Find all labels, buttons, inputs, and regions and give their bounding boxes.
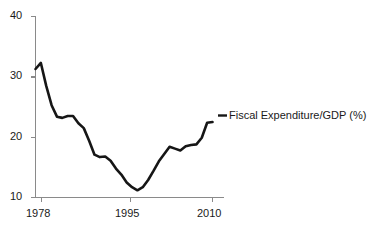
legend-series-label: Fiscal Expenditure/GDP (%) xyxy=(229,110,366,121)
chart-container: 40 30 20 10 1978 1995 2010 Fiscal Expend… xyxy=(0,0,371,233)
data-series-line xyxy=(36,63,213,190)
x-axis-label-2010: 2010 xyxy=(197,208,221,219)
y-axis-label-10: 10 xyxy=(10,191,22,202)
y-axis-label-20: 20 xyxy=(10,131,22,142)
y-axis-label-40: 40 xyxy=(10,10,22,21)
y-axis-label-30: 30 xyxy=(10,70,22,81)
x-axis-label-1978: 1978 xyxy=(26,208,50,219)
x-axis-label-1995: 1995 xyxy=(115,208,139,219)
